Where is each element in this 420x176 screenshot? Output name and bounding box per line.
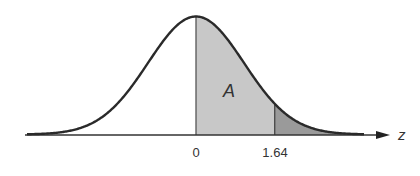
normal-curve-figure: A z 0 1.64 — [0, 0, 420, 176]
axis-arrow-icon — [376, 131, 390, 139]
axis-label: z — [397, 126, 406, 143]
area-label: A — [222, 81, 235, 101]
area-a-region — [196, 17, 275, 136]
tick-label-critical: 1.64 — [262, 145, 287, 160]
tick-label-zero: 0 — [192, 145, 199, 160]
